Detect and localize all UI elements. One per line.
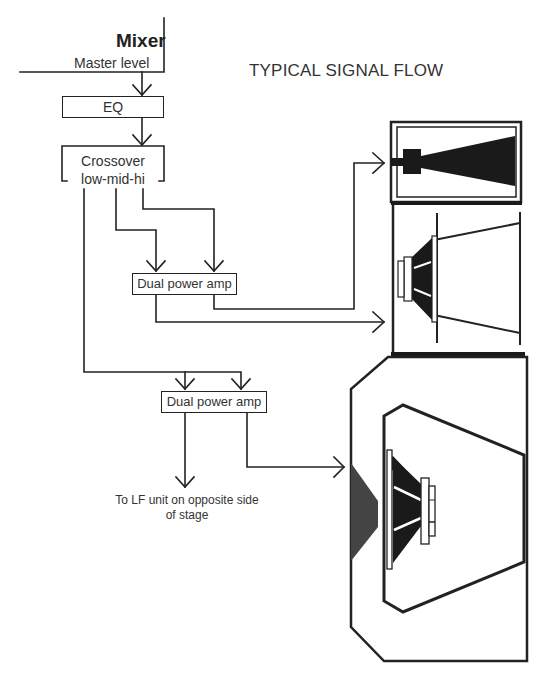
dual-power-amp-low: Dual power amp: [161, 391, 267, 413]
connector-amp-to-horn: [214, 163, 384, 309]
connector-amp-to-lf: [247, 413, 344, 467]
mixer-label: Mixer: [116, 31, 166, 50]
mid-cone-driver-icon: [391, 201, 525, 357]
horn-driver-icon: [391, 122, 521, 202]
eq-block: EQ: [62, 96, 164, 118]
dual-power-amp-high-mid: Dual power amp: [132, 273, 237, 295]
low-frequency-cabinet-icon: [351, 357, 527, 661]
crossover-label-line2: low-mid-hi: [68, 172, 158, 186]
diagram-title: TYPICAL SIGNAL FLOW: [249, 62, 443, 79]
remote-lf-note: To LF unit on opposite side of stage: [112, 493, 262, 523]
crossover-label-line1: Crossover: [68, 154, 158, 168]
connector-mid-to-amp: [116, 189, 156, 271]
master-level-label: Master level: [74, 56, 149, 70]
